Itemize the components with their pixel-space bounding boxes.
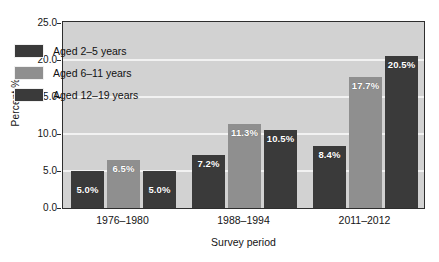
y-tick-mark bbox=[57, 134, 61, 135]
bar-chart: Percent % 0.05.010.015.020.025.0 5.0%6.5… bbox=[0, 0, 439, 262]
legend-swatch-icon bbox=[14, 88, 44, 102]
bar-value-label: 11.3% bbox=[228, 127, 261, 138]
bar-value-label: 8.4% bbox=[313, 149, 346, 160]
y-tick-mark bbox=[57, 208, 61, 209]
legend-item-label: Aged 6–11 years bbox=[53, 67, 132, 79]
y-tick-label: 10.0 bbox=[23, 129, 57, 139]
bar-value-label: 7.2% bbox=[192, 158, 225, 169]
bar-value-label: 5.0% bbox=[71, 184, 104, 195]
legend-item[interactable]: Aged 12–19 years bbox=[14, 84, 174, 106]
y-tick-label: 0.0 bbox=[23, 203, 57, 213]
legend-item-label: Aged 12–19 years bbox=[53, 89, 138, 101]
legend-item-label: Aged 2–5 years bbox=[53, 45, 127, 57]
legend-swatch-icon bbox=[14, 66, 44, 80]
legend-swatch-icon bbox=[14, 44, 44, 58]
y-tick-mark bbox=[57, 23, 61, 24]
bar-value-label: 10.5% bbox=[264, 133, 297, 144]
y-tick-label: 5.0 bbox=[23, 166, 57, 176]
x-tick-label: 2011–2012 bbox=[305, 214, 425, 226]
y-tick-label: 25.0 bbox=[23, 18, 57, 28]
chart-legend: Aged 2–5 yearsAged 6–11 yearsAged 12–19 … bbox=[14, 40, 174, 106]
bar[interactable] bbox=[385, 56, 418, 208]
bar-value-label: 17.7% bbox=[349, 80, 382, 91]
y-tick-mark bbox=[57, 171, 61, 172]
x-tick-label: 1976–1980 bbox=[63, 214, 183, 226]
bar-value-label: 6.5% bbox=[107, 163, 140, 174]
legend-item[interactable]: Aged 6–11 years bbox=[14, 62, 174, 84]
bar-value-label: 20.5% bbox=[385, 59, 418, 70]
x-axis-title: Survey period bbox=[62, 236, 425, 248]
x-tick-label: 1988–1994 bbox=[184, 214, 304, 226]
legend-item[interactable]: Aged 2–5 years bbox=[14, 40, 174, 62]
bar-value-label: 5.0% bbox=[143, 184, 176, 195]
bar[interactable] bbox=[349, 77, 382, 208]
